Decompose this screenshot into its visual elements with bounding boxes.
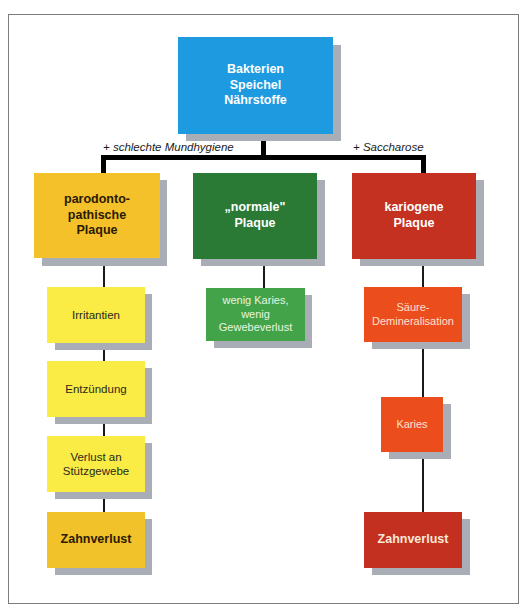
- node-zahnverlust-left: Zahnverlust: [47, 512, 145, 568]
- connector-left-down: [101, 155, 106, 174]
- connector-right-down: [421, 155, 426, 174]
- node-saeure-demineralisation: Säure- Demineralisation: [364, 287, 462, 342]
- edge-label-left: + schlechte Mundhygiene: [103, 141, 234, 153]
- node-parodontopathische-plaque: parodonto- pathische Plaque: [34, 173, 160, 258]
- root-node: Bakterien Speichel Nährstoffe: [178, 37, 333, 134]
- node-karies: Karies: [381, 397, 443, 452]
- connector-horizontal-bar: [101, 155, 426, 160]
- node-kariogene-plaque: kariogene Plaque: [352, 173, 476, 259]
- node-zahnverlust-right: Zahnverlust: [364, 512, 462, 568]
- node-wenig-karies: wenig Karies, wenig Gewebeverlust: [206, 288, 305, 341]
- node-verlust-stuetzgewebe: Verlust an Stützgewebe: [47, 436, 145, 492]
- edge-label-right: + Saccharose: [353, 141, 424, 153]
- node-irritantien: Irritantien: [47, 287, 145, 343]
- node-entzuendung: Entzündung: [47, 361, 145, 417]
- node-normale-plaque: „normale" Plaque: [193, 173, 317, 259]
